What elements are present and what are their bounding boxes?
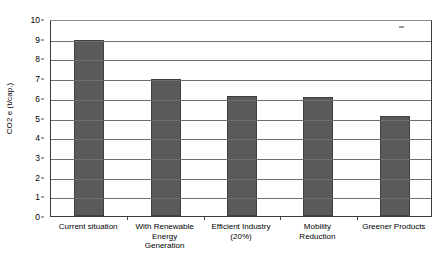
y-tick-label: 7	[35, 74, 40, 84]
bar-chart: CO2 e (t/cap.) 012345678910 Current situ…	[0, 0, 447, 272]
x-axis-label: Efficient Industry(20%)	[197, 222, 285, 241]
x-tick-mark	[127, 216, 128, 220]
y-tick-label: 9	[35, 35, 40, 45]
y-tick-label: 4	[35, 133, 40, 143]
y-tick-label: 5	[35, 114, 40, 124]
gridline	[51, 60, 431, 61]
y-tick-mark	[41, 79, 44, 80]
y-tick-label: 0	[35, 212, 40, 222]
gridline	[51, 41, 431, 42]
x-axis-label-line: Greener Products	[350, 222, 438, 232]
y-tick-label: 2	[35, 173, 40, 183]
x-axis-label-line: Efficient Industry	[197, 222, 285, 232]
gridline	[51, 120, 431, 121]
gridline	[51, 139, 431, 140]
y-tick-mark	[41, 118, 44, 119]
x-axis-label-line: With Renewable	[120, 222, 208, 232]
y-tick-label: 1	[35, 192, 40, 202]
y-tick-label: 6	[35, 94, 40, 104]
x-tick-mark	[357, 216, 358, 220]
bar[interactable]	[380, 116, 410, 216]
y-tick-mark	[41, 177, 44, 178]
y-axis-ticks: 012345678910	[22, 20, 44, 217]
bar[interactable]	[74, 40, 104, 216]
y-tick-mark	[41, 39, 44, 40]
x-axis-label: With RenewableEnergyGeneration	[120, 222, 208, 251]
bars-layer	[51, 21, 431, 216]
y-tick-label: 3	[35, 153, 40, 163]
y-tick-label: 10	[31, 15, 40, 25]
gridline	[51, 100, 431, 101]
y-tick-mark	[41, 157, 44, 158]
y-tick-label: 8	[35, 54, 40, 64]
gridline	[51, 198, 431, 199]
bar-slot	[127, 21, 203, 216]
x-axis-label-line: (20%)	[197, 232, 285, 242]
x-axis-label: Greener Products	[350, 222, 438, 232]
y-tick-mark	[41, 197, 44, 198]
y-tick-mark	[41, 217, 44, 218]
y-axis-title-label: CO2 e (t/cap.)	[6, 83, 15, 135]
x-tick-mark	[204, 216, 205, 220]
y-axis-title: CO2 e (t/cap.)	[0, 0, 20, 217]
bar-slot	[204, 21, 280, 216]
y-tick-mark	[41, 98, 44, 99]
gridline	[51, 159, 431, 160]
y-tick-mark	[41, 59, 44, 60]
x-tick-mark	[280, 216, 281, 220]
x-axis-label-line: Mobility	[273, 222, 361, 232]
bar-slot	[51, 21, 127, 216]
gridline	[51, 179, 431, 180]
y-tick-mark	[41, 138, 44, 139]
x-axis-label-line: Reduction	[273, 232, 361, 242]
x-axis-label: Current situation	[44, 222, 132, 232]
bar-slot	[280, 21, 356, 216]
bar-slot	[357, 21, 433, 216]
x-axis-label-line: Energy	[120, 232, 208, 242]
plot-area	[50, 20, 432, 217]
x-axis-label-line: Generation	[120, 241, 208, 251]
x-axis-label: MobilityReduction	[273, 222, 361, 241]
x-axis-label-line: Current situation	[44, 222, 132, 232]
x-axis-labels: Current situationWith RenewableEnergyGen…	[50, 222, 432, 272]
y-tick-mark	[41, 20, 44, 21]
gridline	[51, 80, 431, 81]
